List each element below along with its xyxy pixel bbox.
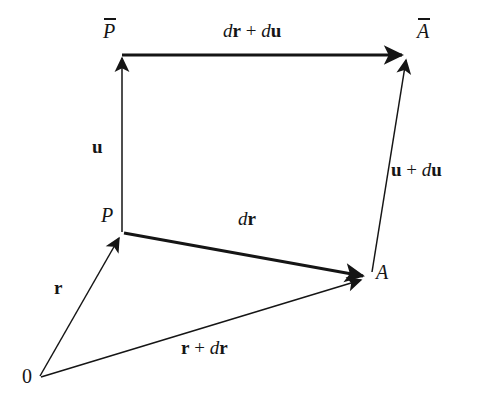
vector-label-r: r — [54, 278, 62, 297]
point-label-p-bar: P — [103, 20, 115, 41]
vector-label-dr-plus-du: dr + du — [223, 21, 281, 40]
vector-label-r-plus-dr: r + dr — [181, 338, 228, 357]
vector-diagram-canvas — [0, 0, 478, 401]
vector-label-u: u — [92, 137, 103, 156]
point-label-origin: 0 — [22, 366, 32, 386]
point-label-a-bar: A — [417, 20, 429, 41]
point-label-a: A — [376, 262, 388, 282]
vector-label-u-plus-du: u + du — [391, 160, 442, 179]
vector-line-r-plus-dr — [41, 280, 361, 377]
point-label-p: P — [101, 205, 113, 225]
vector-line-dr — [124, 233, 363, 276]
vector-line-r — [40, 238, 119, 376]
vector-label-dr: dr — [238, 209, 256, 228]
vector-diagram-figure: P A P A 0 u dr + du u + du dr r r + dr — [0, 0, 478, 401]
